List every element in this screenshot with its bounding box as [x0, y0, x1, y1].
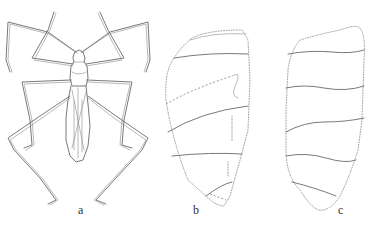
wing-illustration-b — [150, 0, 260, 210]
figure-panel-a — [0, 0, 160, 205]
figure-label-b: b — [193, 204, 199, 216]
figure-label-a: a — [78, 204, 83, 216]
insect-illustration — [0, 0, 160, 205]
wing-illustration-c — [260, 0, 370, 210]
figure-panel-b — [150, 0, 260, 210]
figure-plate: a b c — [0, 0, 370, 227]
figure-panel-c — [260, 0, 370, 210]
figure-label-c: c — [338, 204, 343, 216]
